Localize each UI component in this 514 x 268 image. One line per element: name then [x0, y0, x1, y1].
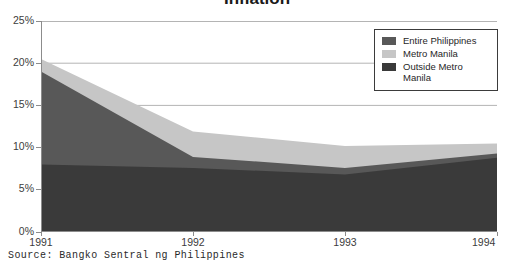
inflation-chart-figure: Inflation 25% 20% 15% 10% 5% 0% — [0, 0, 514, 268]
legend-swatch-icon — [382, 50, 396, 58]
legend-swatch-icon — [382, 37, 396, 45]
legend-item-label: Entire Philippines — [403, 35, 476, 46]
legend-item-metro-manila[interactable]: Metro Manila — [382, 48, 491, 60]
x-axis-tick-label: 1993 — [324, 236, 366, 248]
y-axis-tick-label: 20% — [0, 56, 34, 68]
y-axis-tick-label: 15% — [0, 98, 34, 110]
y-axis-tick-label: 10% — [0, 140, 34, 152]
legend-item-label: Outside Metro Manila — [403, 61, 463, 83]
y-axis-tick-label: 5% — [0, 182, 34, 194]
x-axis-tick-label: 1994 — [472, 236, 514, 248]
legend-item-entire-philippines[interactable]: Entire Philippines — [382, 35, 491, 47]
y-axis-tick-label: 25% — [0, 14, 34, 26]
chart-title: Inflation — [0, 0, 514, 9]
legend-swatch-icon — [382, 63, 396, 71]
chart-legend[interactable]: Entire Philippines Metro Manila Outside … — [374, 29, 498, 91]
x-axis-tick-label: 1992 — [172, 236, 214, 248]
x-axis-tick-label: 1991 — [20, 236, 62, 248]
source-note: Source: Bangko Sentral ng Philippines — [8, 250, 245, 261]
legend-item-outside-metro-manila[interactable]: Outside Metro Manila — [382, 61, 491, 85]
legend-item-label: Metro Manila — [403, 48, 458, 59]
